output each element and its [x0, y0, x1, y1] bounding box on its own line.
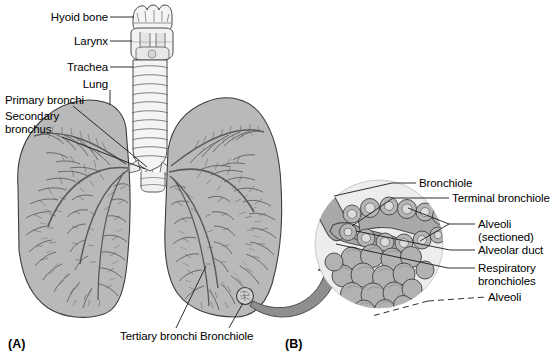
label-larynx: Larynx: [0, 35, 108, 48]
respiratory-system-figure: Hyoid bone Larynx Trachea Lung Primary b…: [0, 0, 558, 364]
label-bronchiole-panel-b: Bronchiole: [419, 177, 472, 190]
label-terminal-bronchiole: Terminal bronchiole: [452, 192, 550, 205]
label-respiratory-bronchioles: Respiratory bronchioles: [478, 262, 536, 287]
trachea-rings: [132, 60, 168, 171]
label-alveoli: Alveoli: [488, 291, 521, 304]
label-alveolar-duct: Alveolar duct: [478, 244, 543, 257]
label-secondary-bronchus: Secondary bronchus: [5, 110, 59, 135]
label-trachea: Trachea: [0, 61, 108, 74]
panel-label-b: (B): [285, 337, 302, 351]
bronchiole-callout-circle: [237, 288, 254, 305]
label-hyoid-bone: Hyoid bone: [0, 11, 108, 24]
label-tertiary-bronchi: Tertiary bronchi: [120, 330, 197, 343]
panel-label-a: (A): [8, 337, 25, 351]
right-lung-silhouette: [165, 98, 282, 317]
larynx-shape: [131, 28, 173, 60]
label-alveoli-sectioned: Alveoli (sectioned): [478, 218, 534, 243]
label-bronchiole-panel-a: Bronchiole: [200, 330, 253, 343]
anatomical-illustration: [0, 0, 558, 364]
label-lung: Lung: [0, 78, 108, 91]
label-primary-bronchi: Primary bronchi: [5, 94, 84, 107]
